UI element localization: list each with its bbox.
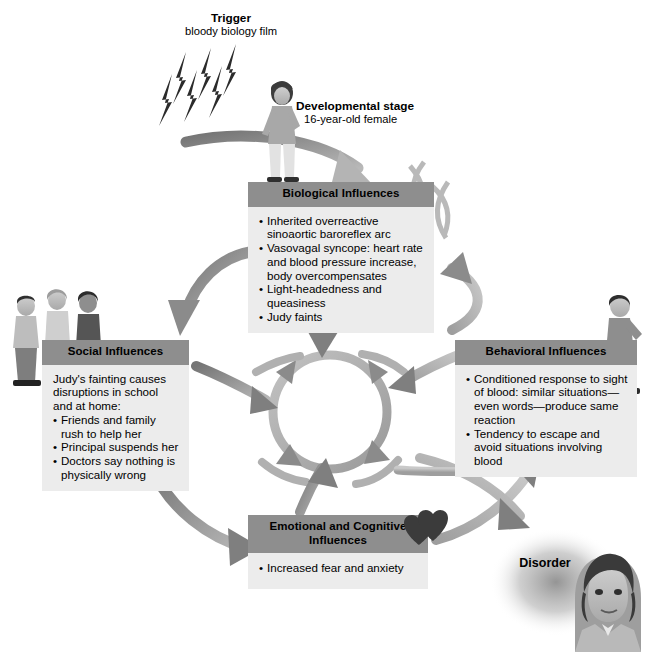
developmental-subtitle: 16-year-old female	[296, 113, 446, 126]
label-disorder: Disorder	[500, 557, 590, 570]
disorder-title: Disorder	[500, 557, 590, 570]
label-developmental-stage: Developmental stage 16-year-old female	[296, 100, 446, 126]
trigger-subtitle: bloody biology film	[161, 25, 301, 38]
heart-icon	[404, 510, 448, 545]
label-trigger: Trigger bloody biology film	[161, 12, 301, 38]
diagram-canvas: Biological Influences Inherited overreac…	[0, 0, 663, 655]
developmental-title: Developmental stage	[296, 100, 446, 113]
trigger-title: Trigger	[161, 12, 301, 25]
